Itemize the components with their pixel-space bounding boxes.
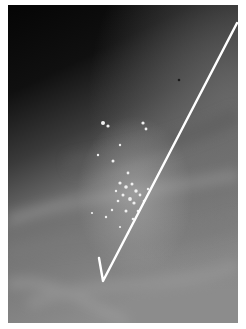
mammogram-image xyxy=(8,5,238,323)
dark-speck xyxy=(178,79,181,82)
mammogram-render xyxy=(8,5,238,323)
